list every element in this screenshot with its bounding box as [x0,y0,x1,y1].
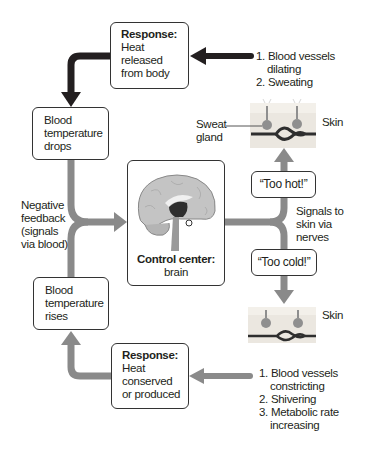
effect-item: 2. Sweating [256,76,335,89]
control-center-box: Control center: brain [127,160,225,286]
effect-item-cont: constricting [259,380,339,393]
effect-item: 3. Metabolic rate [259,406,339,419]
effect-item: 2. Shivering [259,393,339,406]
effect-item: 1. Blood vessels [256,50,335,63]
response-heat-conserved-box: Response: Heat conserved or produced [111,343,189,409]
cold-effects-list: 1. Blood vessels constricting 2. Shiveri… [259,367,339,432]
response-heat-released-box: Response: Heat released from body [110,22,189,89]
too-hot-box: “Too hot!” [251,171,316,198]
skin-cold-illustration [248,307,316,343]
skin-label-bottom: Skin [322,309,343,322]
blood-temperature-drops-box: Blood temperature drops [32,107,109,160]
cold-response-arrow [61,331,111,376]
too-cold-box: “Too cold!” [251,249,317,276]
negative-feedback-label: Negative feedback (signals via blood) [21,199,68,251]
thermoregulation-diagram: Response: Heat released from body 1. Blo… [0,0,372,453]
response-line: from body [121,67,188,80]
control-center-sub: brain [128,266,224,279]
hot-effects-arrow [190,47,251,65]
hot-effects-list: 1. Blood vessels dilating 2. Sweating [256,50,335,89]
cold-effects-arrow [189,368,250,384]
control-center-heading: Control center: [128,253,224,266]
effect-item-cont: dilating [256,63,335,76]
response-heading: Response: [121,28,188,41]
response-line: Heat [121,41,188,54]
response-line: released [121,54,188,67]
blood-temperature-rises-box: Blood temperature rises [33,277,109,330]
effect-item: 1. Blood vessels [259,367,339,380]
negative-feedback-arrow [71,160,127,277]
skin-hot-illustration [226,99,316,148]
brain-icon [131,167,221,251]
skin-label-top: Skin [322,116,343,129]
signals-to-skin-label: Signals to skin via nerves [296,205,344,244]
effect-item-cont: increasing [259,419,339,432]
hot-response-arrow [61,56,110,107]
sweat-gland-label: Sweat gland [196,118,226,144]
